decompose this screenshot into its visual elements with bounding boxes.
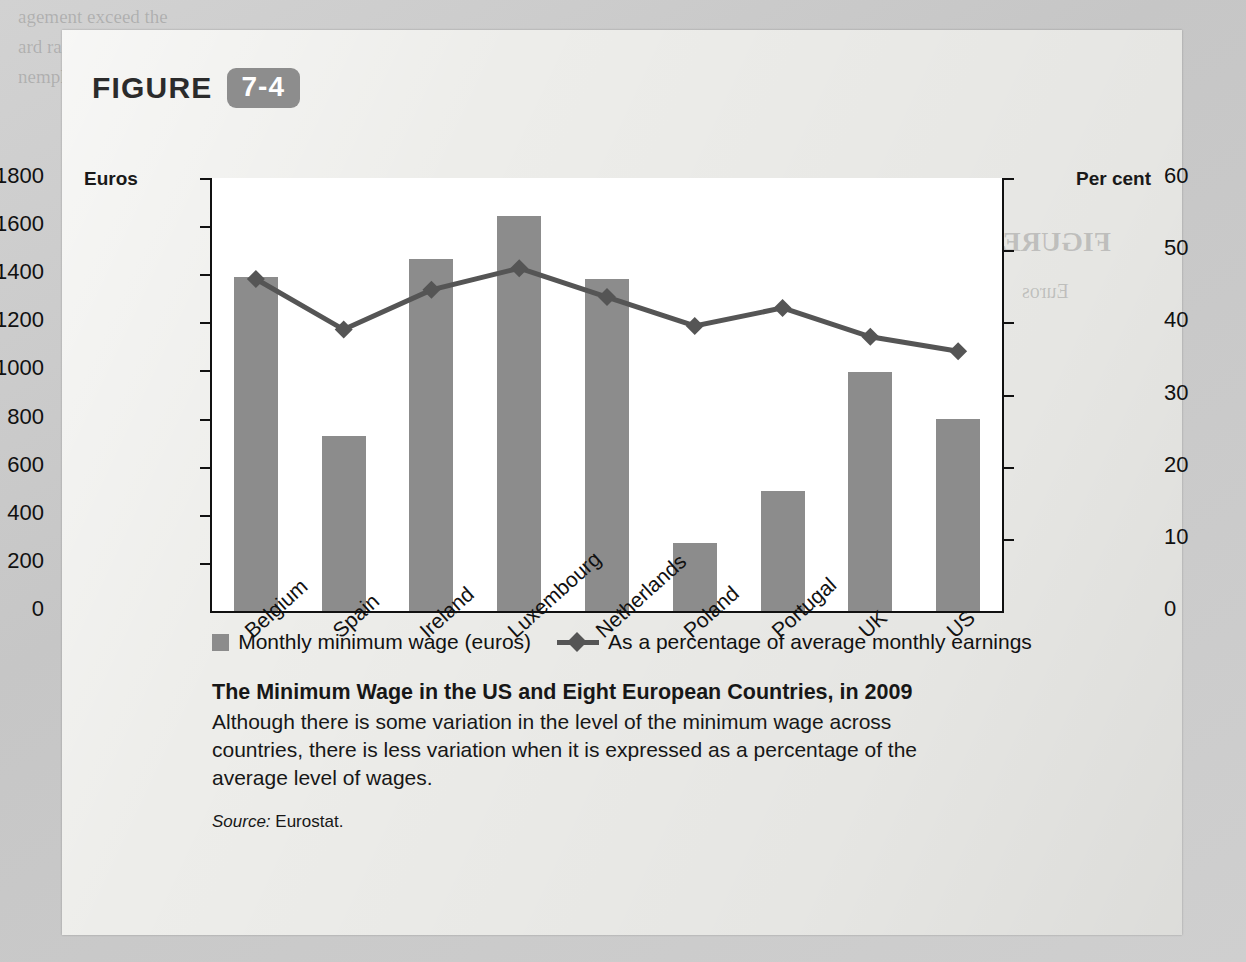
diamond-marker-netherlands	[598, 288, 616, 306]
right-tick-mark	[1002, 467, 1014, 469]
left-tick-mark	[200, 370, 212, 372]
chart-area: Euros Per cent 1800160014001200100080060…	[62, 126, 1182, 626]
figure-word: FIGURE	[92, 71, 213, 105]
left-tick-label-1200: 1200	[0, 307, 44, 333]
diamond-marker-uk	[861, 328, 879, 346]
left-axis-unit-label: Euros	[84, 168, 138, 190]
chart-legend: Monthly minimum wage (euros) As a percen…	[62, 630, 1182, 654]
right-tick-mark	[1002, 395, 1014, 397]
figure-number-badge: 7-4	[227, 68, 300, 108]
right-axis-unit-label: Per cent	[1076, 168, 1151, 190]
figure-caption: The Minimum Wage in the US and Eight Eur…	[212, 678, 972, 832]
legend-item-bar: Monthly minimum wage (euros)	[212, 630, 531, 654]
diamond-marker-ireland	[422, 281, 440, 299]
left-tick-label-200: 200	[0, 548, 44, 574]
percentage-line-path	[256, 268, 958, 351]
right-tick-mark	[1002, 539, 1014, 541]
right-tick-label-50: 50	[1164, 235, 1224, 261]
left-tick-label-1400: 1400	[0, 259, 44, 285]
left-tick-mark	[200, 274, 212, 276]
left-tick-mark	[200, 322, 212, 324]
figure-card: FIGURE Euros FIGURE 7-4 Euros Per cent 1…	[62, 30, 1182, 935]
left-tick-label-800: 800	[0, 404, 44, 430]
diamond-marker-portugal	[774, 299, 792, 317]
left-tick-label-1000: 1000	[0, 355, 44, 381]
left-tick-mark	[200, 563, 212, 565]
legend-bar-swatch-icon	[212, 634, 229, 651]
diamond-marker-us	[949, 342, 967, 360]
bleed-text-line-1: agement exceed the	[18, 6, 168, 28]
line-series	[212, 178, 1002, 611]
source-label: Source:	[212, 812, 271, 831]
plot-area: 180016001400120010008006004002000 605040…	[210, 178, 1004, 613]
right-tick-mark	[1002, 178, 1014, 180]
left-tick-label-600: 600	[0, 452, 44, 478]
figure-header: FIGURE 7-4	[92, 68, 300, 108]
right-tick-label-0: 0	[1164, 596, 1224, 622]
left-tick-mark	[200, 467, 212, 469]
right-tick-label-10: 10	[1164, 524, 1224, 550]
caption-title: The Minimum Wage in the US and Eight Eur…	[212, 678, 972, 706]
right-tick-label-60: 60	[1164, 163, 1224, 189]
left-tick-mark	[200, 178, 212, 180]
legend-item-line: As a percentage of average monthly earni…	[557, 630, 1032, 654]
source-value: Eurostat.	[275, 812, 343, 831]
right-tick-mark	[1002, 322, 1014, 324]
legend-diamond-line-icon	[557, 633, 599, 651]
left-tick-mark	[200, 226, 212, 228]
right-tick-mark	[1002, 250, 1014, 252]
caption-body: Although there is some variation in the …	[212, 708, 972, 792]
page-background: agement exceed the ard raise unemploymen…	[0, 0, 1246, 962]
diamond-marker-poland	[686, 317, 704, 335]
left-tick-mark	[200, 515, 212, 517]
left-tick-mark	[200, 419, 212, 421]
legend-bar-label: Monthly minimum wage (euros)	[238, 630, 531, 654]
diamond-marker-luxembourg	[510, 259, 528, 277]
left-tick-label-400: 400	[0, 500, 44, 526]
legend-line-label: As a percentage of average monthly earni…	[608, 630, 1032, 654]
left-tick-label-1800: 1800	[0, 163, 44, 189]
right-tick-label-20: 20	[1164, 452, 1224, 478]
left-tick-label-0: 0	[0, 596, 44, 622]
right-tick-label-40: 40	[1164, 307, 1224, 333]
right-tick-label-30: 30	[1164, 380, 1224, 406]
left-tick-label-1600: 1600	[0, 211, 44, 237]
caption-source: Source: Eurostat.	[212, 812, 972, 832]
